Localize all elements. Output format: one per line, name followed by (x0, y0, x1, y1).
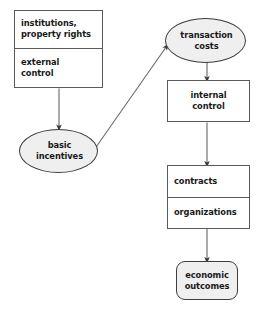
node-basic-incentives-line-2: incentives (36, 151, 83, 162)
node-external-control: external control (15, 49, 102, 87)
node-institutions: institutions, property rights (15, 11, 102, 49)
node-basic-incentives-line-1: basic (36, 140, 83, 151)
node-institutions-external-control: institutions, property rights external c… (14, 10, 103, 88)
node-organizations: organizations (168, 198, 249, 229)
node-economic-outcomes-line-1: economic (185, 270, 230, 281)
node-internal-control: internal control (167, 80, 250, 122)
node-contracts: contracts (168, 166, 249, 198)
node-transaction-costs: transaction costs (165, 18, 246, 63)
node-institutions-line-1: institutions, (21, 18, 102, 29)
node-institutions-line-2: property rights (21, 29, 102, 40)
node-external-control-line-2: control (21, 68, 102, 79)
node-economic-outcomes: economic outcomes (176, 261, 238, 300)
node-transaction-costs-line-1: transaction (180, 30, 232, 41)
node-internal-control-body: internal control (168, 81, 249, 121)
node-contracts-line-1: contracts (174, 176, 249, 187)
node-economic-outcomes-line-2: outcomes (185, 281, 230, 292)
node-contracts-organizations: contracts organizations (167, 165, 250, 229)
node-external-control-line-1: external (21, 57, 102, 68)
diagram-canvas: institutions, property rights external c… (0, 0, 263, 310)
node-organizations-line-1: organizations (174, 207, 249, 218)
node-basic-incentives: basic incentives (19, 129, 98, 173)
node-internal-control-line-1: internal (191, 90, 227, 101)
node-internal-control-line-2: control (192, 101, 224, 112)
node-transaction-costs-line-2: costs (180, 41, 232, 52)
edge-basic-incentives-to-transaction-costs (94, 47, 167, 151)
